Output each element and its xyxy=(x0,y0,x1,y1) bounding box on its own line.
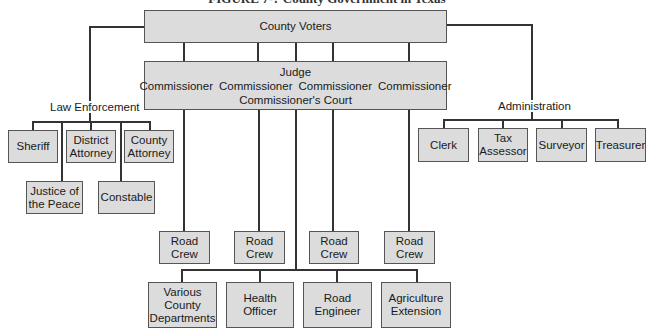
district-attorney-box: District Attorney xyxy=(66,130,116,163)
box-label-line: District xyxy=(73,134,108,147)
treasurer-label: Treasurer xyxy=(596,139,645,152)
box-label-line: County xyxy=(164,299,200,312)
road-crew-box: Road Crew xyxy=(234,231,285,264)
clerk-box: Clerk xyxy=(418,128,469,162)
road-crew-box: Road Crew xyxy=(309,231,359,264)
figure-title: FIGURE 7-? County Government in Texas xyxy=(0,0,654,7)
clerk-label: Clerk xyxy=(430,139,457,152)
box-label-line: Crew xyxy=(246,248,273,261)
connector-line xyxy=(183,42,185,61)
road-crew-box: Road Crew xyxy=(384,231,435,264)
connector-line xyxy=(295,42,297,61)
connector-line xyxy=(149,121,151,130)
connector-line xyxy=(181,269,417,271)
commissioner-label: Commissioner xyxy=(378,79,452,93)
county-voters-label: County Voters xyxy=(259,20,331,33)
connector-line xyxy=(447,24,531,26)
box-label-line: Road xyxy=(171,235,199,248)
surveyor-label: Surveyor xyxy=(538,139,584,152)
connector-line xyxy=(89,26,91,102)
box-label-line: Road xyxy=(324,292,352,305)
commissioner-label: Commissioner xyxy=(140,79,214,93)
road-engineer-box: Road Engineer xyxy=(303,282,372,328)
box-label-line: Various xyxy=(163,286,201,299)
box-label-line: Agriculture xyxy=(389,292,444,305)
box-label-line: Extension xyxy=(391,305,442,318)
road-crew-box: Road Crew xyxy=(159,231,210,264)
box-label-line: Crew xyxy=(321,248,348,261)
box-label-line: Road xyxy=(246,235,274,248)
agriculture-extension-box: Agriculture Extension xyxy=(381,282,451,328)
commissioner-label: Commissioner xyxy=(219,79,293,93)
connector-line xyxy=(332,110,334,231)
box-label-line: Officer xyxy=(243,305,277,318)
connector-line xyxy=(531,24,533,101)
administration-label: Administration xyxy=(497,100,572,112)
connector-line xyxy=(90,121,92,130)
connector-line xyxy=(561,119,563,128)
judge-label: Judge xyxy=(280,65,311,79)
connector-line xyxy=(617,119,619,128)
connector-line xyxy=(61,121,63,181)
commissioners-court-label: Commissioner's Court xyxy=(239,93,352,107)
sheriff-label: Sheriff xyxy=(16,140,49,153)
connector-line xyxy=(120,121,122,181)
constable-box: Constable xyxy=(98,181,155,214)
connector-line xyxy=(332,42,334,61)
various-county-departments-box: Various County Departments xyxy=(148,282,217,328)
box-label-line: Justice of xyxy=(30,185,79,198)
connector-line xyxy=(336,269,338,282)
box-label-line: Tax xyxy=(494,132,512,145)
county-voters-box: County Voters xyxy=(144,10,447,43)
connector-line xyxy=(408,42,410,61)
box-label-line: Road xyxy=(396,235,424,248)
connector-line xyxy=(408,110,410,231)
box-label-line: Departments xyxy=(150,312,216,325)
box-label-line: the Peace xyxy=(29,198,81,211)
connector-line xyxy=(89,26,145,28)
health-officer-box: Health Officer xyxy=(226,282,294,328)
connector-line xyxy=(502,119,504,128)
tax-assessor-box: Tax Assessor xyxy=(478,128,528,162)
surveyor-box: Surveyor xyxy=(536,128,587,162)
connector-line xyxy=(257,42,259,61)
constable-label: Constable xyxy=(101,191,153,204)
connector-line xyxy=(258,110,260,231)
box-label-line: Crew xyxy=(171,248,198,261)
box-label-line: Health xyxy=(243,292,276,305)
connector-line xyxy=(443,119,618,121)
commissioner-label: Commissioner xyxy=(299,79,373,93)
box-label-line: County xyxy=(131,134,167,147)
box-label-line: Road xyxy=(320,235,348,248)
connector-line xyxy=(259,269,261,282)
connector-line xyxy=(181,269,183,282)
justice-of-the-peace-box: Justice of the Peace xyxy=(26,181,83,214)
connector-line xyxy=(295,110,297,270)
sheriff-box: Sheriff xyxy=(8,130,58,163)
box-label-line: Engineer xyxy=(314,305,360,318)
law-enforcement-label: Law Enforcement xyxy=(49,101,141,113)
connector-line xyxy=(416,269,418,282)
box-label-line: Crew xyxy=(396,248,423,261)
commissioners-court-box: Judge Commissioner Commissioner Commissi… xyxy=(144,61,447,110)
county-attorney-box: County Attorney xyxy=(124,130,174,163)
connector-line xyxy=(183,110,185,231)
box-label-line: Attorney xyxy=(128,147,171,160)
connector-line xyxy=(32,121,34,130)
box-label-line: Assessor xyxy=(479,145,526,158)
connector-line xyxy=(443,119,445,128)
box-label-line: Attorney xyxy=(70,147,113,160)
treasurer-box: Treasurer xyxy=(595,128,646,162)
